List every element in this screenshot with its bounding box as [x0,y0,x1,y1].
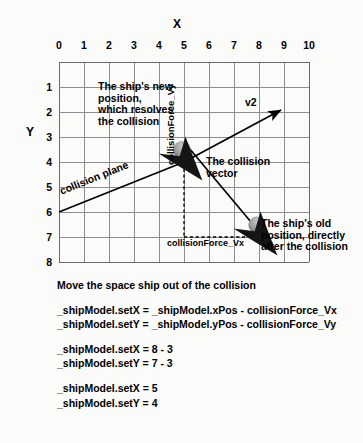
code-line-5: _shipModel.setX = 5 [57,381,357,396]
diagram-page: X Y 012345678910 12345678 [0,0,363,443]
code-spacer [57,293,357,303]
code-line-1: _shipModel.setX = _shipModel.xPos - coll… [57,303,357,318]
annotation-old-position: The ship's old position, directly after … [261,218,360,253]
code-spacer [57,332,357,342]
annotation-new-position: The ship's new position, which resolves … [98,81,174,127]
code-line-2: _shipModel.setY = _shipModel.yPos - coll… [57,317,357,332]
annotation-collision-vector: The collision vector [206,156,282,179]
label-collision-force-vy: collisionForce_Vy [165,84,176,165]
code-block: Move the space ship out of the collision… [57,278,357,410]
label-collision-force-vx: collisionForce_Vx [167,238,244,248]
code-spacer [57,371,357,381]
code-line-4: _shipModel.setY = 7 - 3 [57,356,357,371]
code-line-3: _shipModel.setX = 8 - 3 [57,342,357,357]
code-line-6: _shipModel.setY = 4 [57,396,357,411]
label-v2: v2 [245,96,257,108]
code-heading: Move the space ship out of the collision [57,278,357,293]
